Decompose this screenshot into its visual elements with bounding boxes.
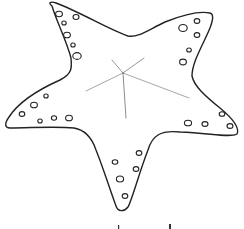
spot	[112, 160, 118, 164]
spot	[31, 102, 38, 108]
spot	[66, 115, 73, 121]
spot	[133, 167, 139, 172]
spot	[44, 94, 48, 98]
spot	[73, 15, 79, 20]
spot	[179, 25, 187, 32]
spot	[62, 21, 66, 25]
spot	[116, 176, 123, 182]
spot	[194, 19, 200, 24]
spot	[71, 43, 75, 47]
spot	[38, 119, 42, 123]
spot	[19, 112, 25, 117]
starfish-illustration	[0, 0, 244, 229]
spot	[51, 116, 56, 120]
spot	[180, 59, 187, 65]
spot	[73, 53, 81, 60]
spot	[194, 33, 200, 38]
bottom-marks	[118, 224, 171, 229]
spot	[64, 32, 71, 38]
spot	[184, 120, 191, 126]
spot	[219, 112, 225, 117]
spot	[122, 194, 128, 199]
spot	[136, 151, 142, 156]
spot	[56, 11, 63, 16]
spot	[187, 48, 192, 52]
spot	[202, 122, 208, 127]
spot	[227, 124, 233, 129]
starfish-drawing	[0, 0, 244, 229]
